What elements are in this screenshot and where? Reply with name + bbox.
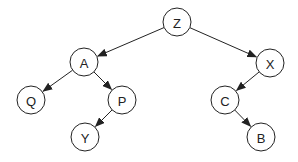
node-x: X — [256, 49, 284, 77]
node-b: B — [247, 123, 275, 151]
node-label: Z — [173, 16, 181, 31]
edge-a-p — [94, 72, 111, 89]
edge-p-y — [96, 110, 112, 126]
edge-a-q — [43, 70, 72, 91]
edge-c-b — [235, 110, 251, 126]
node-label: P — [118, 94, 127, 109]
node-label: A — [80, 56, 89, 71]
node-c: C — [211, 86, 239, 114]
node-p: P — [108, 86, 136, 114]
nodes-group: ZAXQPCYB — [17, 8, 284, 151]
node-label: X — [266, 57, 275, 72]
edge-z-x — [190, 28, 256, 57]
node-label: B — [257, 131, 266, 146]
node-q: Q — [17, 86, 45, 114]
node-a: A — [70, 48, 98, 76]
node-y: Y — [71, 123, 99, 151]
node-z: Z — [163, 8, 191, 36]
node-label: Q — [26, 94, 36, 109]
node-label: C — [220, 94, 229, 109]
edge-x-c — [237, 72, 260, 91]
tree-diagram: ZAXQPCYB — [0, 0, 298, 162]
node-label: Y — [81, 131, 90, 146]
edge-z-a — [98, 28, 164, 57]
